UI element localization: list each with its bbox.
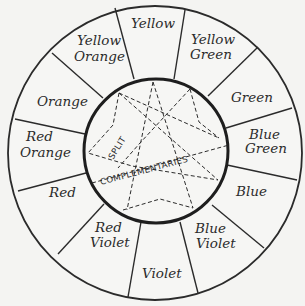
label-red-orange-1: Red (25, 128, 53, 144)
label-yellow-green-2: Green (190, 46, 232, 62)
label-yellow-orange-1: Yellow (77, 32, 121, 48)
label-green: Green (231, 89, 273, 105)
label-red: Red (48, 184, 76, 200)
label-blue-violet-1: Blue (194, 220, 226, 236)
label-red-orange-2: Orange (20, 144, 71, 160)
label-red-violet-1: Red (94, 219, 122, 235)
label-yellow: Yellow (131, 15, 175, 31)
label-yellow-orange-2: Orange (74, 48, 125, 64)
label-blue-green-2: Green (245, 140, 287, 156)
label-red-violet-2: Violet (90, 234, 130, 250)
label-blue: Blue (235, 183, 267, 199)
label-yellow-green-1: Yellow (191, 31, 235, 47)
label-blue-violet-2: Violet (196, 235, 236, 251)
label-violet: Violet (142, 265, 182, 281)
label-orange: Orange (37, 93, 88, 109)
color-wheel-diagram: SPLIT COMPLEMENTARIES Yellow Yellow Gree… (0, 0, 305, 306)
